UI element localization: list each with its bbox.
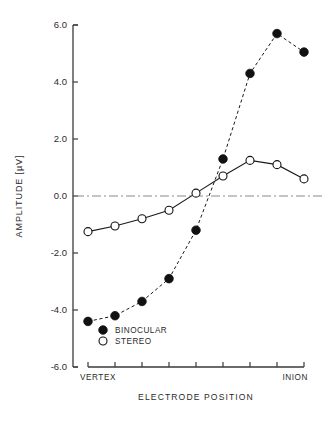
data-point-binocular-0 — [84, 317, 93, 326]
y-axis-title: AMPLITUDE [µV] — [14, 155, 24, 238]
data-point-stereo-0 — [84, 228, 92, 236]
y-axis-tick-label: 6.0 — [54, 19, 67, 30]
data-point-binocular-1 — [111, 311, 120, 320]
y-axis-tick-label: 0.0 — [54, 190, 67, 201]
y-axis-tick-label: -6.0 — [51, 361, 67, 372]
y-axis-tick-label: -2.0 — [51, 247, 67, 258]
x-axis-left-end-label: VERTEX — [80, 373, 116, 382]
y-axis-tick-label: 4.0 — [54, 76, 67, 87]
data-point-stereo-6 — [246, 156, 254, 164]
data-point-stereo-3 — [165, 206, 173, 214]
x-axis-title: ELECTRODE POSITION — [138, 392, 254, 402]
legend-marker-binocular — [99, 326, 108, 335]
data-point-stereo-5 — [219, 172, 227, 180]
data-point-binocular-2 — [138, 297, 147, 306]
data-point-stereo-1 — [111, 222, 119, 230]
x-axis-right-end-label: INION — [283, 373, 309, 382]
data-point-binocular-3 — [165, 274, 174, 283]
series-line-binocular — [88, 34, 304, 322]
data-point-stereo-7 — [273, 161, 281, 169]
y-axis-tick-label: 2.0 — [54, 133, 67, 144]
figure-amplitude-vs-electrode-position: 6.04.02.00.0-2.0-4.0-6.0AMPLITUDE [µV]VE… — [0, 0, 329, 427]
data-point-binocular-6 — [246, 69, 255, 78]
data-point-binocular-7 — [273, 29, 282, 38]
plot-area: 6.04.02.00.0-2.0-4.0-6.0AMPLITUDE [µV]VE… — [14, 19, 322, 402]
data-point-stereo-4 — [192, 189, 200, 197]
data-point-stereo-2 — [138, 215, 146, 223]
legend-label-binocular: BINOCULAR — [115, 326, 167, 335]
data-point-binocular-4 — [192, 226, 201, 235]
legend-marker-stereo — [99, 337, 107, 345]
y-axis-tick-label: -4.0 — [51, 304, 67, 315]
data-point-binocular-5 — [219, 155, 228, 164]
data-point-stereo-8 — [300, 175, 308, 183]
legend-label-stereo: STEREO — [115, 337, 152, 346]
data-point-binocular-8 — [300, 48, 309, 57]
chart-canvas: 6.04.02.00.0-2.0-4.0-6.0AMPLITUDE [µV]VE… — [0, 0, 329, 427]
